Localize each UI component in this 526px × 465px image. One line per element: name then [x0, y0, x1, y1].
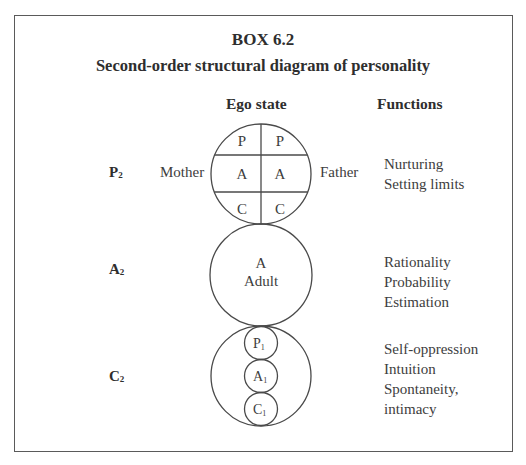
cell-mother-c: C	[237, 201, 247, 217]
cell-father-p: P	[276, 133, 284, 149]
adult-word: Adult	[244, 273, 279, 289]
p1-label: P1	[253, 336, 265, 352]
cell-father-a: A	[275, 166, 286, 182]
cell-father-c: C	[275, 201, 285, 217]
cell-mother-a: A	[237, 166, 248, 182]
adult-letter: A	[256, 255, 267, 271]
parent-grid	[200, 120, 320, 228]
a1-label: A1	[253, 369, 267, 385]
c1-label: C1	[253, 402, 266, 418]
cell-mother-p: P	[238, 133, 246, 149]
ego-state-diagram: P P A A C C A Adult P1 A1 C1	[0, 0, 526, 465]
